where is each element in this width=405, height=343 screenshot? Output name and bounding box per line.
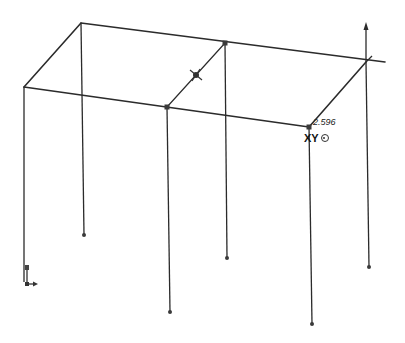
origin-target-icon xyxy=(321,134,329,142)
graphics-viewport[interactable]: 2.596 XY xyxy=(0,0,405,343)
leg-front-right[interactable] xyxy=(309,127,312,324)
node-front-middle[interactable] xyxy=(165,105,170,110)
top-back-beam[interactable] xyxy=(81,23,385,62)
plane-indicator[interactable]: XY xyxy=(304,132,329,144)
leg-end-back-left[interactable] xyxy=(82,233,86,237)
sketch-geometry[interactable] xyxy=(0,0,405,343)
vertical-axis-arrow-icon xyxy=(364,22,373,62)
node-front-right[interactable] xyxy=(307,125,312,130)
node-back-middle[interactable] xyxy=(223,41,228,46)
plane-name: XY xyxy=(304,132,319,144)
dimension-label[interactable]: 2.596 xyxy=(313,117,336,127)
leg-back-left[interactable] xyxy=(81,23,84,235)
coordinate-triad-icon xyxy=(25,265,38,287)
leg-back-right[interactable] xyxy=(366,62,369,267)
leg-end-back-right[interactable] xyxy=(367,265,371,269)
leg-end-front-right[interactable] xyxy=(310,322,314,326)
leg-end-back-middle[interactable] xyxy=(225,256,229,260)
leg-back-middle[interactable] xyxy=(225,43,227,258)
leg-end-front-middle[interactable] xyxy=(168,310,172,314)
leg-front-middle[interactable] xyxy=(167,107,170,312)
top-left-beam[interactable] xyxy=(24,23,81,87)
